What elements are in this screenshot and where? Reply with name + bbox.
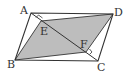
label-f: F [80, 38, 88, 51]
label-a: A [19, 4, 29, 17]
label-b: B [7, 58, 15, 71]
geometry-diagram: A D B C E F [0, 0, 129, 73]
label-d: D [114, 6, 123, 19]
right-angle-mark-f [90, 49, 93, 55]
label-e: E [40, 25, 48, 38]
label-c: C [97, 61, 105, 73]
